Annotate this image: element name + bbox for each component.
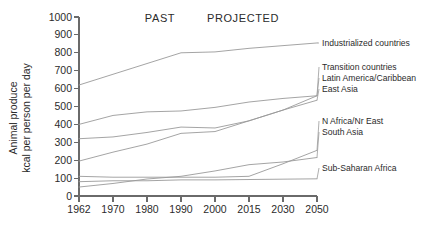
series-label-transition-countries: Transition countries [322, 62, 397, 72]
y-tick-1000: 1000 [49, 11, 73, 23]
y-axis [74, 17, 79, 196]
series-label-latin-america-caribbean: Latin America/Caribbean [322, 73, 416, 83]
x-axis-tick-labels: 1962 1970 1980 1990 2000 2015 2030 2050 [67, 203, 329, 215]
x-tick-1970: 1970 [101, 203, 125, 215]
series-line-latin-america-caribbean [79, 96, 317, 125]
projected-label: PROJECTED [207, 12, 279, 24]
y-tick-0: 0 [66, 190, 72, 202]
x-tick-2050: 2050 [305, 203, 329, 215]
y-axis-title-line2: kcal per person per day [20, 62, 32, 172]
x-tick-2015: 2015 [237, 203, 261, 215]
series-line-east-asia [79, 100, 317, 138]
x-tick-1980: 1980 [135, 203, 159, 215]
y-tick-100: 100 [54, 172, 72, 184]
y-axis-title: Animal produce kcal per person per day [7, 62, 32, 172]
series-lines-layer [79, 43, 317, 187]
y-tick-700: 700 [54, 64, 72, 76]
series-label-industrialized-countries: Industrialized countries [322, 38, 410, 48]
series-labels: Industrialized countries Transition coun… [322, 38, 416, 173]
series-line-sub-saharan-africa [79, 179, 317, 182]
y-axis-title-line1: Animal produce [7, 81, 19, 154]
y-tick-500: 500 [54, 100, 72, 112]
chart-canvas: Animal produce kcal per person per day 1… [0, 0, 431, 234]
x-tick-1962: 1962 [67, 203, 91, 215]
x-tick-1990: 1990 [169, 203, 193, 215]
series-leader-lines-layer [317, 43, 319, 179]
y-tick-900: 900 [54, 28, 72, 40]
series-label-east-asia: East Asia [322, 84, 358, 94]
series-label-sub-saharan-africa: Sub-Saharan Africa [322, 163, 397, 173]
series-label-south-asia: South Asia [322, 127, 363, 137]
past-label: PAST [145, 12, 175, 24]
y-axis-tick-labels: 1000 900 800 700 600 500 400 300 200 100… [49, 11, 73, 202]
y-tick-800: 800 [54, 46, 72, 58]
y-tick-400: 400 [54, 118, 72, 130]
y-tick-600: 600 [54, 82, 72, 94]
series-line-south-asia [79, 158, 317, 188]
series-line-transition-countries [79, 96, 317, 161]
y-tick-300: 300 [54, 136, 72, 148]
leader-line-sub-saharan-africa [317, 168, 319, 179]
series-label-n-africa-nr-east: N Africa/Nr East [322, 116, 384, 126]
x-tick-2000: 2000 [203, 203, 227, 215]
x-axis [79, 196, 317, 202]
series-line-industrialized-countries [79, 43, 317, 85]
y-tick-200: 200 [54, 154, 72, 166]
x-tick-2030: 2030 [271, 203, 295, 215]
animal-produce-line-chart: Animal produce kcal per person per day 1… [0, 0, 431, 234]
period-annotations: PAST PROJECTED [145, 12, 279, 24]
